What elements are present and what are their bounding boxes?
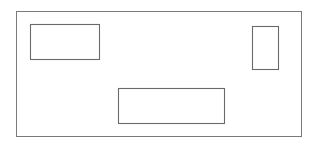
rect-bottom-center xyxy=(119,89,225,124)
diagram-canvas xyxy=(0,0,316,148)
rect-top-left xyxy=(31,25,100,60)
diagram-svg xyxy=(0,0,316,148)
rect-top-right xyxy=(253,27,279,70)
